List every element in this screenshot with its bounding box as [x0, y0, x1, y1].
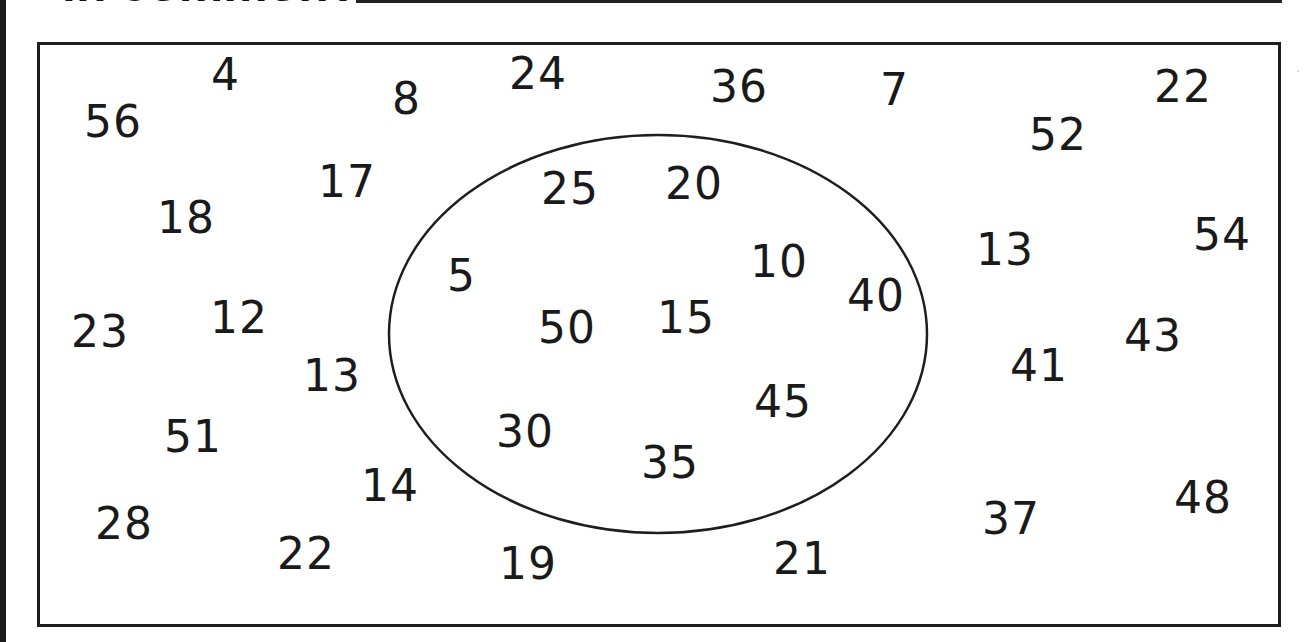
- inside-number: 45: [754, 380, 812, 424]
- outside-number: 8: [392, 77, 421, 121]
- outside-number: 13: [976, 228, 1034, 272]
- inside-number: 40: [847, 274, 905, 318]
- inside-number: 10: [750, 240, 808, 284]
- outside-number: 19: [499, 542, 557, 586]
- outside-number: 52: [1029, 113, 1087, 157]
- outside-number: 43: [1124, 314, 1182, 358]
- outside-number: 37: [982, 497, 1040, 541]
- outside-number: 14: [361, 464, 419, 508]
- outside-number: 48: [1174, 476, 1232, 520]
- outside-number: 18: [157, 196, 215, 240]
- heading-rule: [356, 0, 1282, 3]
- scan-speck: [1297, 70, 1299, 72]
- outside-number: 22: [1154, 65, 1212, 109]
- outside-number: 7: [880, 68, 909, 112]
- outside-number: 41: [1010, 344, 1068, 388]
- inside-number: 50: [538, 306, 596, 350]
- inside-number: 25: [541, 167, 599, 211]
- outside-number: 28: [95, 502, 153, 546]
- inside-number: 15: [657, 296, 715, 340]
- outside-number: 56: [84, 100, 142, 144]
- outside-number: 51: [164, 415, 222, 459]
- outside-number: 21: [773, 537, 831, 581]
- inside-number: 20: [665, 162, 723, 206]
- inside-number: 30: [496, 410, 554, 454]
- outside-number: 13: [303, 354, 361, 398]
- outside-number: 36: [710, 65, 768, 109]
- outside-number: 4: [211, 53, 240, 97]
- outside-number: 23: [71, 310, 129, 354]
- outside-number: 17: [318, 160, 376, 204]
- inside-number: 5: [447, 254, 476, 298]
- outside-number: 24: [509, 52, 567, 96]
- page-edge-bar: [0, 0, 6, 642]
- outside-number: 22: [277, 532, 335, 576]
- worksheet-heading: in common?: [62, 0, 359, 4]
- outside-number: 12: [210, 296, 268, 340]
- outside-number: 54: [1193, 213, 1251, 257]
- inside-number: 35: [641, 441, 699, 485]
